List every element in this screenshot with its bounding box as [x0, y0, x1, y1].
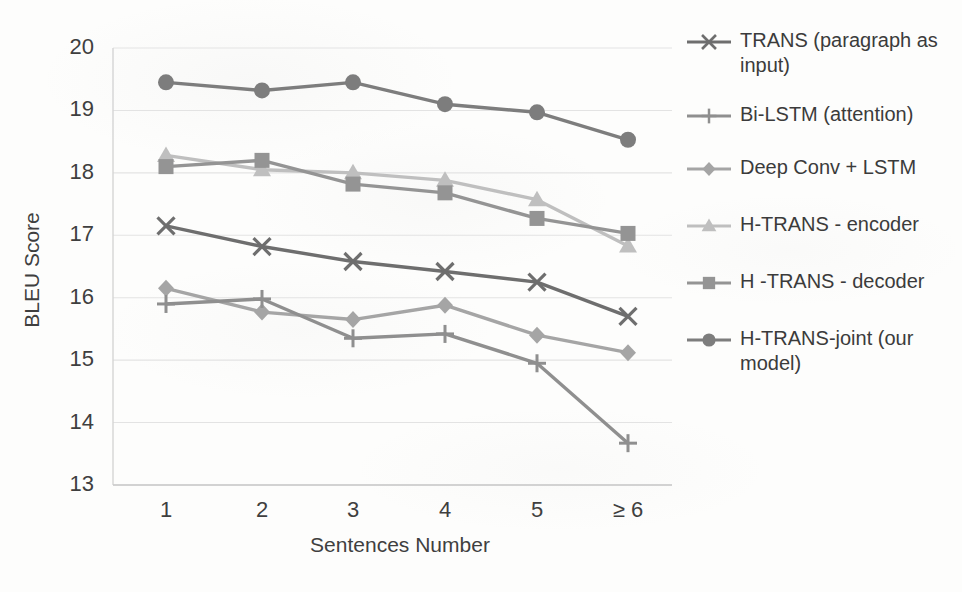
legend-entry-0[interactable]: TRANS (paragraph as input)	[686, 28, 952, 78]
marker-circle	[158, 74, 174, 90]
x-tick-label: 5	[507, 497, 567, 523]
marker-circle	[345, 74, 361, 90]
marker-square	[530, 211, 545, 226]
marker-circle	[702, 333, 715, 346]
x-tick-label: 2	[232, 497, 292, 523]
legend-swatch-square	[686, 270, 732, 296]
series-0[interactable]	[158, 217, 637, 325]
marker-circle	[620, 132, 636, 148]
x-tick-label: 1	[136, 497, 196, 523]
legend-entry-2[interactable]: Deep Conv + LSTM	[686, 155, 952, 182]
marker-diamond	[158, 280, 174, 297]
legend-swatch-diamond	[686, 156, 732, 182]
legend-label-0: TRANS (paragraph as input)	[740, 28, 950, 78]
marker-diamond	[620, 344, 636, 361]
y-tick-label: 13	[46, 471, 94, 497]
marker-diamond	[529, 327, 545, 344]
x-tick-label: 4	[415, 497, 475, 523]
series-line	[166, 155, 628, 246]
marker-square	[346, 177, 361, 192]
marker-circle	[254, 82, 270, 98]
y-tick-label: 19	[46, 96, 94, 122]
x-tick-label: ≥ 6	[598, 497, 658, 523]
legend-label-4: H -TRANS - decoder	[740, 269, 925, 294]
chart-legend: TRANS (paragraph as input)Bi-LSTM (atten…	[686, 28, 952, 406]
marker-circle	[437, 96, 453, 112]
marker-plus	[344, 329, 362, 347]
legend-entry-1[interactable]: Bi-LSTM (attention)	[686, 102, 952, 129]
bleu-score-line-chart: 1314151617181920 12345≥ 6 BLEU Score Sen…	[0, 0, 962, 592]
marker-square	[621, 226, 636, 241]
marker-circle	[529, 104, 545, 120]
marker-plus	[436, 325, 454, 343]
marker-x	[620, 308, 637, 325]
marker-square	[159, 159, 174, 174]
series-line	[166, 299, 628, 443]
y-tick-label: 16	[46, 284, 94, 310]
marker-diamond	[702, 162, 715, 176]
y-tick-label: 15	[46, 346, 94, 372]
marker-diamond	[437, 297, 453, 314]
legend-entry-4[interactable]: H -TRANS - decoder	[686, 269, 952, 296]
legend-swatch-circle	[686, 327, 732, 353]
legend-swatch-triangle	[686, 213, 732, 239]
y-tick-label: 20	[46, 34, 94, 60]
y-tick-label: 14	[46, 409, 94, 435]
marker-diamond	[345, 311, 361, 328]
legend-entry-5[interactable]: H-TRANS-joint (our model)	[686, 326, 952, 376]
series-line	[166, 82, 628, 139]
y-axis-title: BLEU Score	[20, 180, 44, 360]
series-line	[166, 160, 628, 233]
marker-square	[438, 185, 453, 200]
legend-entry-3[interactable]: H-TRANS - encoder	[686, 212, 952, 239]
series-5[interactable]	[158, 74, 636, 147]
legend-swatch-plus	[686, 103, 732, 129]
x-axis-title: Sentences Number	[230, 533, 570, 557]
y-tick-label: 17	[46, 221, 94, 247]
marker-square	[255, 153, 270, 168]
marker-plus	[702, 109, 717, 124]
y-tick-label: 18	[46, 159, 94, 185]
marker-square	[703, 277, 715, 289]
legend-swatch-x	[686, 29, 732, 55]
legend-label-1: Bi-LSTM (attention)	[740, 102, 913, 127]
series-line	[166, 226, 628, 317]
legend-label-3: H-TRANS - encoder	[740, 212, 919, 237]
legend-label-2: Deep Conv + LSTM	[740, 155, 916, 180]
legend-label-5: H-TRANS-joint (our model)	[740, 326, 950, 376]
x-tick-label: 3	[323, 497, 383, 523]
marker-plus	[253, 290, 271, 308]
